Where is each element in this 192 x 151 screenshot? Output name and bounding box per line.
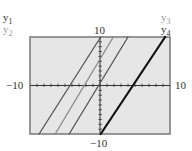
graph-screen bbox=[0, 0, 192, 151]
